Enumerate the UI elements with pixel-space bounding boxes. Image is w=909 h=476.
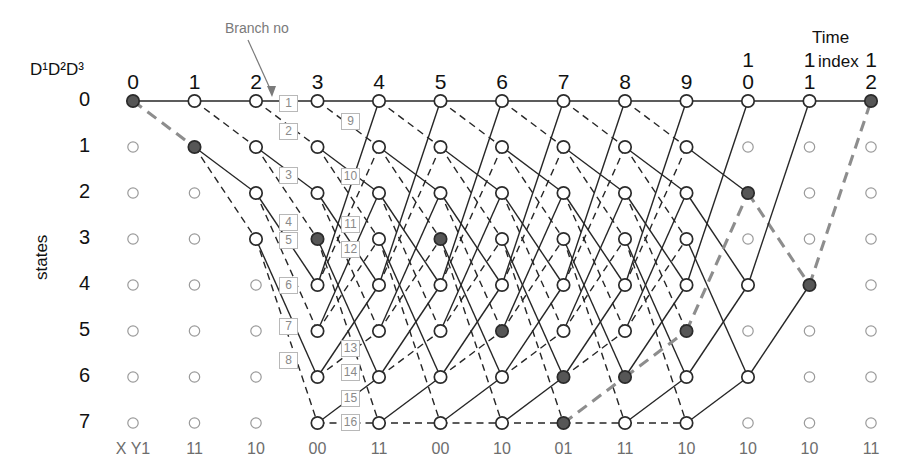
trellis-node-open[interactable] xyxy=(311,95,323,107)
trellis-node-open[interactable] xyxy=(557,325,569,337)
trellis-node-open[interactable] xyxy=(866,418,876,428)
trellis-node-open[interactable] xyxy=(866,142,876,152)
trellis-node-open[interactable] xyxy=(189,418,199,428)
trellis-node-open[interactable] xyxy=(251,280,261,290)
trellis-node-open[interactable] xyxy=(373,233,385,245)
trellis-node-open[interactable] xyxy=(619,95,631,107)
trellis-node-open[interactable] xyxy=(680,187,692,199)
trellis-node-open[interactable] xyxy=(251,326,261,336)
trellis-node-open[interactable] xyxy=(434,141,446,153)
trellis-node-open[interactable] xyxy=(373,95,385,107)
trellis-node-open[interactable] xyxy=(250,187,262,199)
trellis-node-open[interactable] xyxy=(373,325,385,337)
trellis-node-filled[interactable] xyxy=(680,325,692,337)
trellis-node-open[interactable] xyxy=(619,417,631,429)
trellis-node-open[interactable] xyxy=(804,372,814,382)
trellis-node-open[interactable] xyxy=(496,279,508,291)
trellis-node-open[interactable] xyxy=(743,142,753,152)
trellis-node-open[interactable] xyxy=(128,372,138,382)
trellis-node-open[interactable] xyxy=(311,417,323,429)
trellis-node-open[interactable] xyxy=(557,141,569,153)
trellis-node-open[interactable] xyxy=(250,141,262,153)
trellis-node-open[interactable] xyxy=(128,188,138,198)
trellis-node-open[interactable] xyxy=(251,418,261,428)
trellis-node-open[interactable] xyxy=(619,279,631,291)
trellis-node-open[interactable] xyxy=(250,233,262,245)
trellis-node-filled[interactable] xyxy=(434,233,446,245)
trellis-node-open[interactable] xyxy=(557,279,569,291)
trellis-node-open[interactable] xyxy=(434,187,446,199)
trellis-node-open[interactable] xyxy=(866,326,876,336)
trellis-node-open[interactable] xyxy=(496,187,508,199)
trellis-node-open[interactable] xyxy=(311,187,323,199)
trellis-node-open[interactable] xyxy=(434,325,446,337)
trellis-node-open[interactable] xyxy=(373,187,385,199)
trellis-node-open[interactable] xyxy=(189,188,199,198)
trellis-node-open[interactable] xyxy=(128,234,138,244)
trellis-node-open[interactable] xyxy=(250,95,262,107)
trellis-node-open[interactable] xyxy=(680,141,692,153)
trellis-node-open[interactable] xyxy=(434,371,446,383)
trellis-node-open[interactable] xyxy=(619,141,631,153)
trellis-node-filled[interactable] xyxy=(496,325,508,337)
trellis-node-open[interactable] xyxy=(557,187,569,199)
trellis-node-filled[interactable] xyxy=(865,95,877,107)
trellis-node-open[interactable] xyxy=(188,95,200,107)
trellis-node-open[interactable] xyxy=(804,418,814,428)
trellis-node-open[interactable] xyxy=(866,188,876,198)
trellis-node-open[interactable] xyxy=(496,233,508,245)
trellis-node-open[interactable] xyxy=(496,95,508,107)
trellis-node-filled[interactable] xyxy=(803,279,815,291)
trellis-node-open[interactable] xyxy=(373,417,385,429)
trellis-node-open[interactable] xyxy=(680,233,692,245)
trellis-node-open[interactable] xyxy=(619,187,631,199)
trellis-node-filled[interactable] xyxy=(311,233,323,245)
trellis-node-open[interactable] xyxy=(496,417,508,429)
trellis-node-open[interactable] xyxy=(803,95,815,107)
trellis-node-open[interactable] xyxy=(680,279,692,291)
trellis-node-open[interactable] xyxy=(128,280,138,290)
trellis-node-open[interactable] xyxy=(311,371,323,383)
trellis-node-filled[interactable] xyxy=(619,371,631,383)
trellis-node-filled[interactable] xyxy=(557,417,569,429)
trellis-node-open[interactable] xyxy=(189,234,199,244)
trellis-node-open[interactable] xyxy=(251,372,261,382)
trellis-node-open[interactable] xyxy=(434,279,446,291)
trellis-node-open[interactable] xyxy=(743,326,753,336)
trellis-node-open[interactable] xyxy=(680,371,692,383)
trellis-node-open[interactable] xyxy=(496,371,508,383)
trellis-node-open[interactable] xyxy=(128,418,138,428)
trellis-node-open[interactable] xyxy=(743,418,753,428)
trellis-node-open[interactable] xyxy=(373,141,385,153)
trellis-node-open[interactable] xyxy=(742,371,754,383)
trellis-node-open[interactable] xyxy=(434,95,446,107)
trellis-node-open[interactable] xyxy=(804,326,814,336)
trellis-node-open[interactable] xyxy=(680,417,692,429)
trellis-node-open[interactable] xyxy=(866,234,876,244)
trellis-node-open[interactable] xyxy=(189,326,199,336)
trellis-node-filled[interactable] xyxy=(742,187,754,199)
trellis-node-open[interactable] xyxy=(311,141,323,153)
trellis-node-open[interactable] xyxy=(743,234,753,244)
trellis-node-open[interactable] xyxy=(434,417,446,429)
trellis-node-open[interactable] xyxy=(804,188,814,198)
trellis-node-open[interactable] xyxy=(619,233,631,245)
trellis-node-filled[interactable] xyxy=(557,371,569,383)
trellis-node-open[interactable] xyxy=(804,142,814,152)
trellis-node-filled[interactable] xyxy=(127,95,139,107)
trellis-node-open[interactable] xyxy=(496,141,508,153)
trellis-node-open[interactable] xyxy=(866,280,876,290)
trellis-node-open[interactable] xyxy=(311,325,323,337)
trellis-node-open[interactable] xyxy=(311,279,323,291)
trellis-node-open[interactable] xyxy=(680,95,692,107)
trellis-node-open[interactable] xyxy=(189,280,199,290)
trellis-node-open[interactable] xyxy=(742,279,754,291)
trellis-node-filled[interactable] xyxy=(188,141,200,153)
trellis-node-open[interactable] xyxy=(128,326,138,336)
trellis-node-open[interactable] xyxy=(742,95,754,107)
trellis-node-open[interactable] xyxy=(804,234,814,244)
trellis-node-open[interactable] xyxy=(189,372,199,382)
trellis-node-open[interactable] xyxy=(373,279,385,291)
trellis-node-open[interactable] xyxy=(866,372,876,382)
trellis-node-open[interactable] xyxy=(557,233,569,245)
